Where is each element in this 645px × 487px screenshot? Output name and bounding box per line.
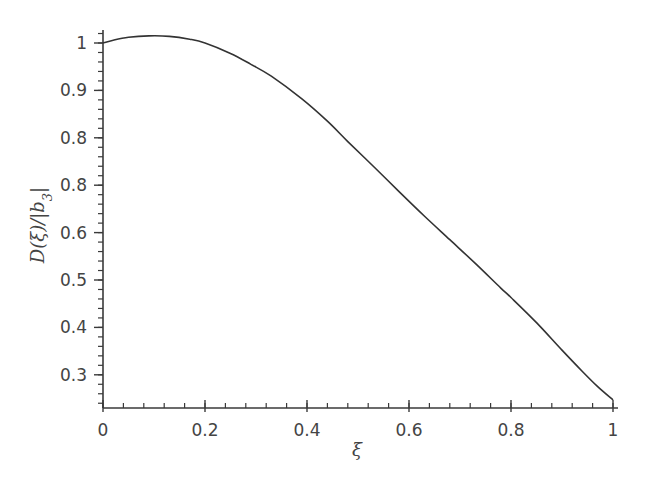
x-tick-label: 0.2: [191, 420, 218, 440]
y-tick-label: 0.8: [60, 175, 87, 195]
x-axis-label: ξ: [352, 439, 363, 460]
y-tick-label: 0.9: [60, 80, 87, 100]
data-series: [103, 36, 613, 400]
y-label-tail: |: [27, 187, 49, 193]
y-tick-label: 0.6: [60, 223, 87, 243]
line-chart: 10.90.80.80.60.50.40.3 00.20.40.60.81 ξ …: [0, 0, 645, 487]
x-axis: 00.20.40.60.81: [98, 400, 619, 440]
y-tick-label: 0.8: [60, 128, 87, 148]
y-label-main: D(ξ)/|b: [27, 201, 49, 264]
y-axis-label: D(ξ)/|b3|: [27, 187, 55, 264]
y-tick-label: 0.3: [60, 365, 87, 385]
x-tick-label: 0.4: [293, 420, 320, 440]
x-tick-label: 0: [98, 420, 109, 440]
x-tick-label: 0.8: [497, 420, 524, 440]
y-tick-label: 0.5: [60, 270, 87, 290]
y-axis: 10.90.80.80.60.50.40.3: [60, 30, 103, 408]
x-tick-label: 1: [608, 420, 619, 440]
y-tick-label: 0.4: [60, 317, 87, 337]
y-label-subscript: 3: [40, 193, 55, 201]
y-tick-label: 1: [76, 33, 87, 53]
x-tick-label: 0.6: [395, 420, 422, 440]
data-line: [103, 36, 613, 400]
